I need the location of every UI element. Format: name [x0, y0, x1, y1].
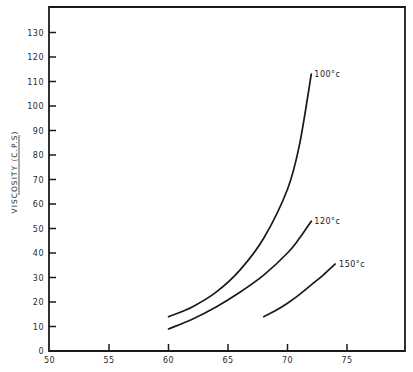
y-axis-title-text: VISCOSITY (C.P.S): [10, 131, 19, 214]
y-axis-title: VISCOSITY (C.P.S): [10, 131, 19, 214]
x-axis-ticks: 505560657075: [44, 344, 353, 365]
y-tick-label: 20: [33, 298, 44, 307]
y-tick-label: 40: [33, 249, 44, 258]
y-tick-label: 30: [33, 274, 44, 283]
x-tick-label: 50: [44, 356, 55, 365]
y-tick-label: 80: [33, 151, 44, 160]
y-tick-label: 10: [33, 323, 44, 332]
y-axis-ticks: 0102030405060708090100110120130: [27, 29, 56, 357]
y-tick-label: 120: [27, 53, 44, 62]
y-tick-label: 90: [33, 127, 44, 136]
viscosity-chart: 0102030405060708090100110120130 50556065…: [0, 0, 413, 372]
series-labels: 100°c120°c150°c: [314, 70, 365, 269]
x-tick-label: 75: [341, 356, 352, 365]
plot-border: [49, 7, 405, 351]
y-tick-label: 0: [38, 347, 44, 356]
x-tick-label: 70: [282, 356, 293, 365]
y-tick-label: 60: [33, 200, 44, 209]
y-tick-label: 110: [27, 78, 44, 87]
plot-frame: [49, 7, 405, 351]
curve-150c: [264, 264, 335, 317]
x-tick-label: 65: [222, 356, 233, 365]
curve-120c: [169, 221, 312, 329]
curve-100c: [169, 74, 312, 317]
series-label-100c: 100°c: [314, 70, 340, 79]
series-label-150c: 150°c: [339, 260, 365, 269]
y-tick-label: 50: [33, 225, 44, 234]
x-tick-label: 60: [163, 356, 174, 365]
x-tick-label: 55: [103, 356, 114, 365]
series-curves: [169, 74, 336, 329]
y-tick-label: 130: [27, 29, 44, 38]
y-tick-label: 70: [33, 176, 44, 185]
series-label-120c: 120°c: [314, 217, 340, 226]
y-tick-label: 100: [27, 102, 44, 111]
